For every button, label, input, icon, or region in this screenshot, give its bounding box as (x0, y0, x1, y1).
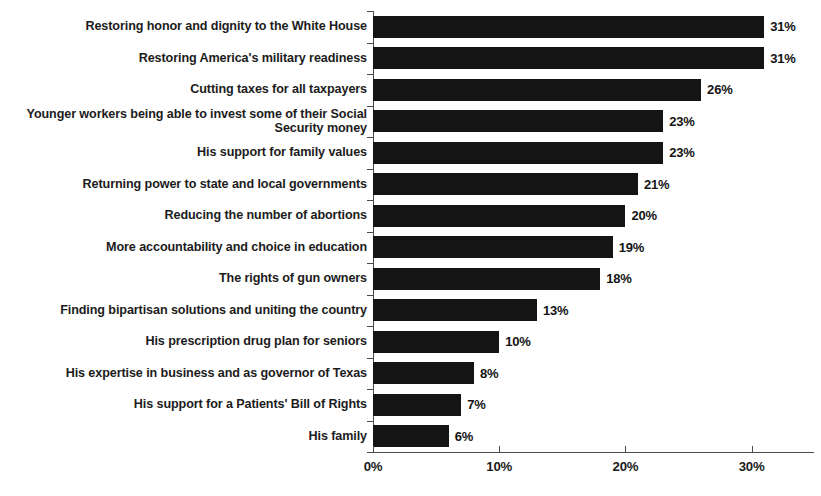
bar (373, 173, 638, 195)
bar-row: More accountability and choice in educat… (0, 232, 821, 264)
category-label: His support for a Patients' Bill of Righ… (14, 389, 367, 421)
plot-area: Restoring honor and dignity to the White… (0, 0, 821, 452)
bar-row: Returning power to state and local gover… (0, 169, 821, 201)
category-label: Returning power to state and local gover… (14, 169, 367, 201)
category-tick (367, 137, 373, 138)
value-tick-label: 0% (364, 459, 383, 474)
bar-container: 26% (373, 79, 733, 101)
bar-container: 8% (373, 362, 498, 384)
bar (373, 425, 449, 447)
bar-value-label: 8% (480, 366, 498, 381)
value-tick-label: 20% (612, 459, 638, 474)
bar-container: 7% (373, 394, 486, 416)
category-label: The rights of gun owners (14, 263, 367, 295)
bar-container: 6% (373, 425, 473, 447)
category-label: More accountability and choice in educat… (14, 232, 367, 264)
bar-value-label: 23% (669, 145, 694, 160)
category-tick (367, 11, 373, 12)
bar (373, 16, 764, 38)
bar (373, 142, 663, 164)
category-label: His expertise in business and as governo… (14, 358, 367, 390)
category-tick (367, 232, 373, 233)
bar-value-label: 20% (631, 208, 656, 223)
bar-row: Cutting taxes for all taxpayers26% (0, 74, 821, 106)
category-label: Restoring America's military readiness (14, 43, 367, 75)
bar-container: 20% (373, 205, 657, 227)
bar-container: 21% (373, 173, 669, 195)
bar-chart: Restoring honor and dignity to the White… (0, 0, 821, 496)
bar-row: The rights of gun owners18% (0, 263, 821, 295)
category-tick (367, 74, 373, 75)
value-tick (625, 446, 626, 453)
bar-rows: Restoring honor and dignity to the White… (0, 11, 821, 452)
bar (373, 331, 499, 353)
bar-value-label: 6% (455, 429, 473, 444)
bar-row: His family6% (0, 421, 821, 453)
value-tick-label: 30% (739, 459, 765, 474)
bar-row: His support for a Patients' Bill of Righ… (0, 389, 821, 421)
bar (373, 47, 764, 69)
bar (373, 79, 701, 101)
bar-value-label: 31% (770, 51, 795, 66)
bar-row: His support for family values23% (0, 137, 821, 169)
category-tick (367, 263, 373, 264)
category-label: Finding bipartisan solutions and uniting… (14, 295, 367, 327)
bar-container: 31% (373, 16, 796, 38)
bar-container: 23% (373, 110, 695, 132)
bar-value-label: 21% (644, 177, 669, 192)
category-tick (367, 389, 373, 390)
category-tick (367, 200, 373, 201)
category-tick (367, 169, 373, 170)
category-label: Reducing the number of abortions (14, 200, 367, 232)
bar-value-label: 23% (669, 114, 694, 129)
bar-row: Finding bipartisan solutions and uniting… (0, 295, 821, 327)
bar-container: 18% (373, 268, 632, 290)
value-tick (499, 446, 500, 453)
bar-container: 13% (373, 299, 568, 321)
bar (373, 299, 537, 321)
category-label: Younger workers being able to invest som… (14, 106, 367, 138)
bar-row: Restoring honor and dignity to the White… (0, 11, 821, 43)
bar-value-label: 19% (619, 240, 644, 255)
bar-row: His prescription drug plan for seniors10… (0, 326, 821, 358)
category-tick (367, 326, 373, 327)
value-tick (373, 446, 374, 453)
category-label: Restoring honor and dignity to the White… (14, 11, 367, 43)
bar (373, 205, 625, 227)
bar-row: Restoring America's military readiness31… (0, 43, 821, 75)
category-tick (367, 295, 373, 296)
category-tick (367, 106, 373, 107)
bar-value-label: 7% (467, 397, 485, 412)
bar-value-label: 13% (543, 303, 568, 318)
bar-container: 23% (373, 142, 695, 164)
bar (373, 394, 461, 416)
value-tick (752, 446, 753, 453)
bar (373, 362, 474, 384)
bar-row: His expertise in business and as governo… (0, 358, 821, 390)
bar-container: 19% (373, 236, 644, 258)
bar-value-label: 26% (707, 82, 732, 97)
category-tick (367, 358, 373, 359)
bar (373, 268, 600, 290)
bar-value-label: 10% (505, 334, 530, 349)
category-tick (367, 43, 373, 44)
bar (373, 236, 613, 258)
category-tick (367, 421, 373, 422)
category-axis-line (373, 452, 814, 453)
value-tick-label: 10% (486, 459, 512, 474)
bar-container: 10% (373, 331, 531, 353)
category-label: His family (14, 421, 367, 453)
bar-row: Younger workers being able to invest som… (0, 106, 821, 138)
bar-container: 31% (373, 47, 796, 69)
bar-row: Reducing the number of abortions20% (0, 200, 821, 232)
bar-value-label: 18% (606, 271, 631, 286)
category-label: His prescription drug plan for seniors (14, 326, 367, 358)
bar-value-label: 31% (770, 19, 795, 34)
bar (373, 110, 663, 132)
category-label: Cutting taxes for all taxpayers (14, 74, 367, 106)
category-label: His support for family values (14, 137, 367, 169)
